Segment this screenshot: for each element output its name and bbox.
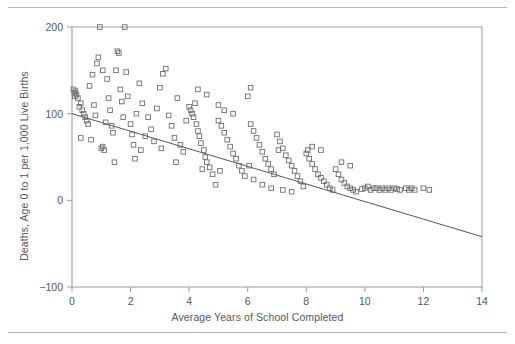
x-tick-label: 2 bbox=[128, 295, 134, 307]
data-point bbox=[304, 151, 309, 156]
data-point bbox=[87, 84, 92, 89]
data-point bbox=[301, 184, 306, 189]
data-point bbox=[234, 156, 239, 161]
data-point bbox=[348, 186, 353, 191]
data-point bbox=[248, 122, 253, 127]
data-point bbox=[169, 124, 174, 129]
x-tick-label: 4 bbox=[186, 295, 192, 307]
data-point bbox=[114, 68, 119, 73]
data-point bbox=[108, 108, 113, 113]
data-point bbox=[133, 156, 138, 161]
data-point bbox=[219, 124, 224, 129]
data-point bbox=[377, 188, 382, 193]
data-point bbox=[305, 148, 310, 153]
data-point bbox=[260, 150, 265, 155]
data-point bbox=[118, 87, 123, 92]
data-point bbox=[286, 158, 291, 163]
data-point bbox=[78, 136, 83, 141]
data-point bbox=[231, 111, 236, 116]
data-point bbox=[199, 141, 204, 146]
data-point bbox=[128, 122, 133, 127]
data-point bbox=[248, 85, 253, 90]
data-point bbox=[149, 127, 154, 132]
data-point bbox=[96, 55, 101, 60]
data-point bbox=[204, 160, 209, 165]
data-point bbox=[95, 61, 100, 66]
axis-ticks bbox=[67, 27, 482, 292]
data-point bbox=[218, 169, 223, 174]
x-tick-label: 8 bbox=[303, 295, 309, 307]
data-point bbox=[251, 129, 256, 134]
data-point bbox=[269, 186, 274, 191]
data-point bbox=[371, 186, 376, 191]
data-point bbox=[207, 165, 212, 170]
data-point bbox=[174, 160, 179, 165]
data-point bbox=[203, 155, 208, 160]
data-point bbox=[242, 174, 247, 179]
data-point bbox=[421, 186, 426, 191]
data-point bbox=[158, 85, 163, 90]
tick-labels: 02468101214−1000100200 bbox=[39, 21, 488, 307]
data-point bbox=[266, 162, 271, 167]
data-point bbox=[427, 188, 432, 193]
data-point bbox=[336, 172, 341, 177]
y-tick-label: 0 bbox=[57, 194, 63, 206]
data-point bbox=[351, 188, 356, 193]
data-point bbox=[89, 137, 94, 142]
data-point bbox=[119, 99, 124, 104]
x-tick-label: 0 bbox=[69, 295, 75, 307]
data-point bbox=[251, 177, 256, 182]
data-point bbox=[194, 122, 199, 127]
data-point bbox=[380, 186, 385, 191]
data-point bbox=[281, 146, 286, 151]
data-point bbox=[155, 106, 160, 111]
data-point bbox=[260, 182, 265, 187]
data-point bbox=[111, 130, 116, 135]
data-point bbox=[139, 148, 144, 153]
data-point bbox=[163, 66, 168, 71]
data-point bbox=[406, 188, 411, 193]
data-point bbox=[333, 167, 338, 172]
data-point bbox=[313, 167, 318, 172]
data-point bbox=[210, 172, 215, 177]
data-point bbox=[172, 136, 177, 141]
data-point bbox=[125, 94, 130, 99]
data-point bbox=[193, 101, 198, 106]
data-point bbox=[374, 186, 379, 191]
data-point bbox=[160, 72, 165, 77]
data-point bbox=[90, 72, 95, 77]
data-point bbox=[146, 115, 151, 120]
data-point-group bbox=[71, 25, 431, 194]
data-point bbox=[348, 163, 353, 168]
data-point bbox=[281, 188, 286, 193]
x-tick-label: 10 bbox=[359, 295, 371, 307]
data-point bbox=[105, 77, 110, 82]
data-point bbox=[191, 115, 196, 120]
data-point bbox=[200, 167, 205, 172]
data-point bbox=[254, 136, 259, 141]
data-point bbox=[275, 132, 280, 137]
data-point bbox=[292, 169, 297, 174]
data-point bbox=[228, 144, 233, 149]
x-tick-label: 12 bbox=[418, 295, 430, 307]
data-point bbox=[196, 87, 201, 92]
data-point bbox=[213, 182, 218, 187]
data-point bbox=[124, 70, 129, 75]
data-point bbox=[289, 189, 294, 194]
data-point bbox=[278, 139, 283, 144]
y-axis-title: Deaths, Age 0 to 1 per 1,000 Live Births bbox=[18, 56, 30, 276]
data-point bbox=[121, 115, 126, 120]
data-point bbox=[196, 129, 201, 134]
data-point bbox=[100, 68, 105, 73]
data-point bbox=[112, 160, 117, 165]
y-tick-label: 100 bbox=[45, 108, 63, 120]
data-point bbox=[130, 132, 135, 137]
data-point bbox=[93, 113, 98, 118]
scatter-plot-figure: 02468101214−1000100200 Deaths, Age 0 to … bbox=[0, 0, 515, 344]
data-point bbox=[137, 81, 142, 86]
data-point bbox=[412, 188, 417, 193]
x-tick-label: 14 bbox=[476, 295, 488, 307]
data-point bbox=[222, 130, 227, 135]
data-point bbox=[231, 151, 236, 156]
data-point bbox=[115, 49, 120, 54]
